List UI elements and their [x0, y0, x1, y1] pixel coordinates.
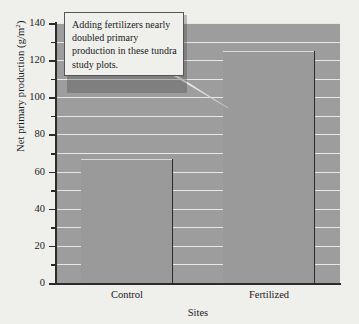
y-tick-label: 100	[29, 92, 45, 103]
y-tick-minor	[51, 264, 55, 266]
y-tick-minor	[51, 79, 55, 81]
y-tick-major	[49, 283, 55, 285]
x-tick-label-control: Control	[111, 289, 143, 300]
chart-figure: 020406080100120140 Net primary productio…	[0, 0, 359, 324]
y-tick-minor	[51, 42, 55, 44]
y-tick-label: 140	[29, 18, 45, 29]
bar-control	[81, 159, 173, 283]
y-axis-title-base: Net primary production (g/m	[15, 28, 26, 152]
y-tick-label: 20	[35, 241, 46, 252]
y-tick-label: 120	[29, 55, 45, 66]
y-tick-minor	[51, 153, 55, 155]
y-axis-line	[55, 22, 57, 284]
y-tick-major	[49, 23, 55, 25]
y-tick-label: 40	[35, 203, 46, 214]
x-axis-title: Sites	[56, 307, 340, 318]
y-tick-major	[49, 134, 55, 136]
y-tick-minor	[51, 116, 55, 118]
y-axis-title-exponent: 2	[14, 24, 22, 28]
y-axis-title: Net primary production (g/m2)	[14, 6, 27, 166]
y-tick-major	[49, 97, 55, 99]
y-tick-label: 0	[40, 278, 45, 289]
y-tick-minor	[51, 227, 55, 229]
y-tick-major	[49, 60, 55, 62]
callout-annotation: Adding fertilizers nearly doubled primar…	[64, 12, 184, 76]
y-tick-major	[49, 246, 55, 248]
y-tick-label: 80	[35, 129, 46, 140]
y-tick-label: 60	[35, 166, 46, 177]
x-tick-label-fertilized: Fertilized	[249, 289, 289, 300]
y-tick-major	[49, 172, 55, 174]
y-tick-minor	[51, 190, 55, 192]
x-axis-line	[55, 283, 341, 285]
y-tick-major	[49, 209, 55, 211]
y-axis-title-tail: )	[15, 21, 26, 25]
